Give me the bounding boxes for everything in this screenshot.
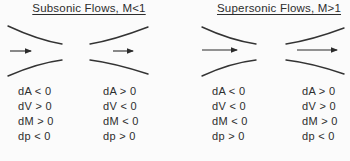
relation-dA: dA > 0: [302, 84, 338, 99]
duct-wall: [8, 60, 62, 76]
subsonic-converging-relations: dA < 0 dV > 0 dM > 0 dp < 0: [18, 84, 54, 144]
relation-dp: dp < 0: [18, 129, 54, 144]
relation-dM: dM < 0: [212, 114, 248, 129]
duct-wall: [90, 60, 148, 74]
subsonic-converging-duct: [8, 26, 62, 76]
relation-dA: dA < 0: [212, 84, 248, 99]
subsonic-diverging-relations: dA > 0 dV < 0 dM < 0 dp > 0: [103, 84, 139, 144]
duct-wall: [286, 60, 344, 74]
relation-dV: dV < 0: [103, 99, 139, 114]
relation-dM: dM > 0: [18, 114, 54, 129]
relation-dA: dA > 0: [103, 84, 139, 99]
duct-wall: [286, 28, 344, 44]
relation-dp: dp > 0: [212, 129, 248, 144]
duct-wall: [202, 27, 256, 44]
relation-dM: dM < 0: [103, 114, 139, 129]
relation-dp: dp > 0: [103, 129, 139, 144]
relation-dp: dp < 0: [302, 129, 338, 144]
duct-wall: [90, 27, 148, 44]
supersonic-converging-duct: [202, 27, 256, 76]
supersonic-diverging-duct: [286, 28, 344, 74]
relation-dV: dV < 0: [212, 99, 248, 114]
duct-wall: [8, 26, 62, 44]
duct-wall: [202, 60, 256, 76]
supersonic-diverging-relations: dA > 0 dV > 0 dM > 0 dp < 0: [302, 84, 338, 144]
supersonic-converging-relations: dA < 0 dV < 0 dM < 0 dp > 0: [212, 84, 248, 144]
relation-dM: dM > 0: [302, 114, 338, 129]
relation-dA: dA < 0: [18, 84, 54, 99]
subsonic-diverging-duct: [90, 27, 148, 74]
relation-dV: dV > 0: [302, 99, 338, 114]
relation-dV: dV > 0: [18, 99, 54, 114]
nozzle-flow-diagram: Subsonic Flows, M<1 Supersonic Flows, M>…: [0, 0, 350, 161]
